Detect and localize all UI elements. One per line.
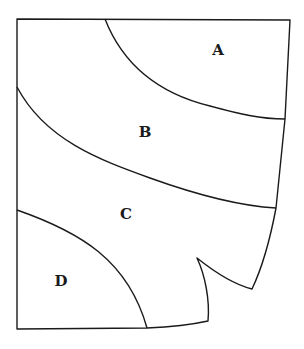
region-label-b: B bbox=[139, 123, 152, 141]
boundary-b-c bbox=[17, 87, 276, 208]
region-label-d: D bbox=[54, 272, 67, 290]
boundary-c-d bbox=[17, 210, 147, 328]
region-label-a: A bbox=[211, 41, 224, 59]
region-label-c: C bbox=[120, 205, 132, 223]
region-diagram: A B C D bbox=[0, 0, 304, 349]
boundary-a-b bbox=[105, 19, 285, 119]
